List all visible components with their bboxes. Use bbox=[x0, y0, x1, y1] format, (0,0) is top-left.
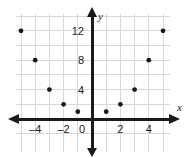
data-point bbox=[132, 87, 137, 92]
x-tick-label: 0 bbox=[79, 123, 85, 135]
data-point bbox=[118, 102, 123, 107]
x-tick-label: –2 bbox=[57, 123, 69, 135]
data-point bbox=[61, 102, 66, 107]
x-tick-label: 2 bbox=[117, 123, 123, 135]
y-tick-label: 8 bbox=[78, 54, 84, 66]
x-tick-label: –4 bbox=[29, 123, 41, 135]
coordinate-plane: –4–2024 4812 x y bbox=[0, 0, 184, 158]
y-axis-label: y bbox=[97, 10, 103, 22]
x-tick-label: 4 bbox=[146, 123, 152, 135]
y-tick-label: 12 bbox=[72, 25, 84, 37]
data-point bbox=[161, 28, 166, 33]
data-point bbox=[146, 58, 151, 63]
data-point bbox=[47, 87, 52, 92]
data-point bbox=[33, 58, 38, 63]
x-axis-left-arrow-icon bbox=[8, 114, 19, 124]
y-axis-up-arrow-icon bbox=[87, 7, 97, 17]
data-point bbox=[104, 109, 109, 114]
x-axis-label: x bbox=[176, 101, 182, 113]
y-axis-down-arrow-icon bbox=[87, 148, 97, 157]
y-tick-label: 4 bbox=[78, 84, 84, 96]
x-axis-right-arrow-icon bbox=[169, 114, 180, 124]
scatter-plot-figure: –4–2024 4812 x y bbox=[0, 0, 184, 158]
data-point bbox=[75, 109, 80, 114]
data-point bbox=[19, 28, 24, 33]
